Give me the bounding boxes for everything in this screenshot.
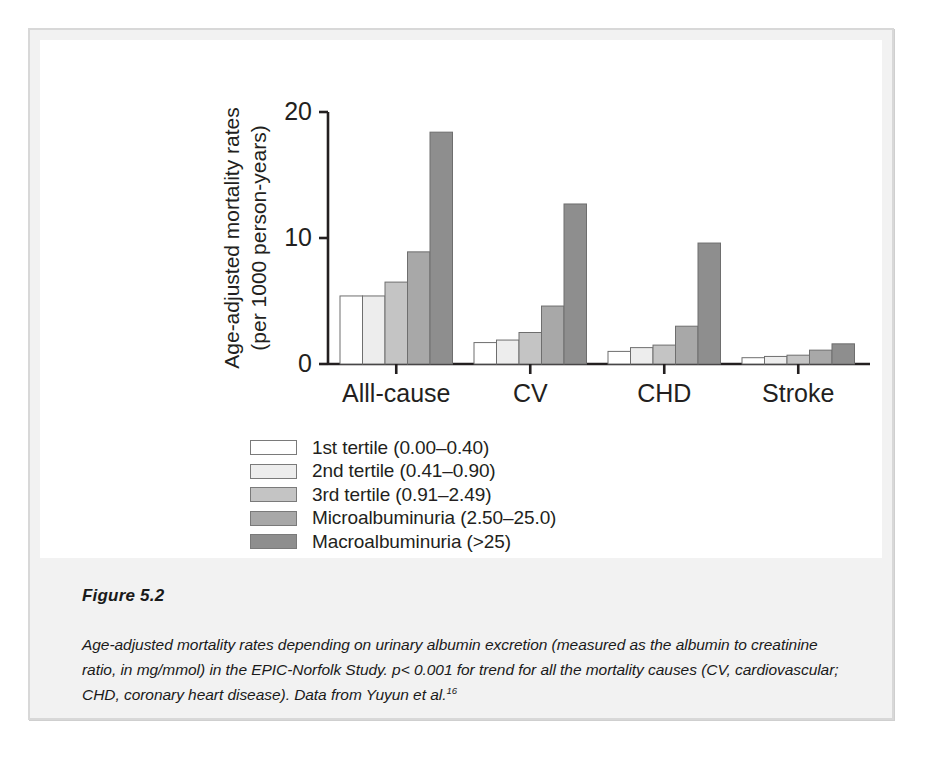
legend-item: Macroalbuminuria (>25) (250, 530, 770, 554)
legend-label-microalbuminuria: Microalbuminuria (2.50–25.0) (312, 507, 556, 529)
caption-body: Age-adjusted mortality rates depending o… (82, 636, 839, 703)
y-axis-tick-label: 10 (284, 223, 312, 251)
chart-bar (676, 326, 699, 364)
legend-swatch-microalbuminuria (250, 511, 297, 526)
figure-number: Figure 5.2 (82, 586, 840, 606)
chart-bar (385, 282, 408, 364)
legend-label-2nd-tertile: 2nd tertile (0.41–0.90) (312, 460, 496, 482)
figure-caption-text: Age-adjusted mortality rates depending o… (82, 632, 840, 707)
x-axis-category-label: Alll-cause (342, 379, 450, 407)
chart-bar (474, 343, 497, 364)
figure-caption-block: Figure 5.2 Age-adjusted mortality rates … (40, 564, 882, 708)
legend-swatch-2nd-tertile (250, 464, 297, 479)
chart-bar (564, 204, 587, 364)
chart-legend: 1st tertile (0.00–0.40) 2nd tertile (0.4… (250, 436, 770, 554)
legend-swatch-macroalbuminuria (250, 534, 297, 549)
chart-bar (363, 296, 386, 364)
legend-item: Microalbuminuria (2.50–25.0) (250, 507, 770, 531)
chart-bar (653, 345, 676, 364)
chart-bar (542, 306, 565, 364)
legend-label-3rd-tertile: 3rd tertile (0.91–2.49) (312, 484, 491, 506)
x-axis-category-label: Stroke (762, 379, 834, 407)
bar-chart-plot: 01020Alll-causeCVCHDStrokeAge-adjusted m… (40, 40, 882, 420)
x-axis-category-label: CHD (637, 379, 691, 407)
chart-bar (408, 252, 431, 364)
y-axis-title-line2: (per 1000 person-years) (247, 125, 270, 350)
chart-bar (742, 358, 765, 364)
chart-bar (430, 132, 453, 364)
chart-bar (519, 333, 542, 365)
chart-bar (608, 351, 631, 364)
legend-label-macroalbuminuria: Macroalbuminuria (>25) (312, 531, 511, 553)
x-axis-category-label: CV (513, 379, 548, 407)
y-axis-title-line1: Age-adjusted mortality rates (220, 107, 243, 368)
chart-svg: 01020Alll-causeCVCHDStrokeAge-adjusted m… (40, 40, 882, 420)
chart-bar (340, 296, 363, 364)
legend-item: 2nd tertile (0.41–0.90) (250, 460, 770, 484)
chart-bar (810, 350, 833, 364)
chart-bar (497, 340, 520, 364)
chart-bar (631, 348, 654, 364)
caption-reference-superscript: 16 (446, 685, 456, 696)
chart-bar (698, 243, 721, 364)
legend-label-1st-tertile: 1st tertile (0.00–0.40) (312, 437, 489, 459)
chart-bar (765, 356, 788, 364)
chart-panel: 01020Alll-causeCVCHDStrokeAge-adjusted m… (40, 40, 882, 558)
y-axis-title: Age-adjusted mortality rates(per 1000 pe… (220, 107, 270, 368)
figure-frame: 01020Alll-causeCVCHDStrokeAge-adjusted m… (28, 28, 894, 720)
chart-bar (832, 344, 855, 364)
y-axis-tick-label: 20 (284, 97, 312, 125)
legend-item: 3rd tertile (0.91–2.49) (250, 483, 770, 507)
legend-swatch-1st-tertile (250, 440, 297, 455)
legend-item: 1st tertile (0.00–0.40) (250, 436, 770, 460)
chart-bar (787, 355, 810, 364)
legend-swatch-3rd-tertile (250, 487, 297, 502)
y-axis-tick-label: 0 (298, 349, 312, 377)
